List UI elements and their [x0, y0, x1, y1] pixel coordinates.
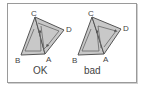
vertex-label-c: C: [88, 9, 94, 18]
vertex-label-a: A: [103, 55, 109, 64]
vertex-label-d: D: [123, 24, 129, 33]
caption-ok: OK: [33, 65, 47, 76]
caption-bad: bad: [84, 65, 101, 76]
vertex-label-b: B: [72, 56, 77, 65]
panel-bad: C D A B: [72, 9, 129, 65]
panel-ok: C D A B: [15, 9, 72, 65]
vertex-label-b: B: [15, 56, 20, 65]
vertex-label-c: C: [31, 9, 37, 18]
vertex-label-d: D: [66, 25, 72, 34]
vertex-label-a: A: [46, 55, 52, 64]
winding-diagram: C D A B C D A B: [0, 0, 143, 88]
